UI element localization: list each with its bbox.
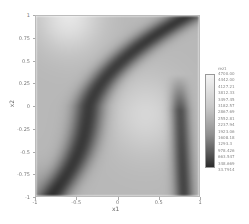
y-tick-label: -0.5 <box>4 149 30 155</box>
y-tick-mark <box>33 152 35 153</box>
y-tick-label: 0.5 <box>4 58 30 64</box>
colorbar-tick-label: 33.7914 <box>218 167 235 172</box>
y-tick-label: -0.25 <box>4 126 30 132</box>
colorbar-tick-label: 3182.57 <box>218 103 235 108</box>
colorbar-tick-label: 348.669 <box>218 161 235 166</box>
x-tick-mark <box>118 197 119 200</box>
y-tick-label: -0.75 <box>4 171 30 177</box>
x-tick-mark <box>200 197 201 200</box>
x-tick-mark <box>76 197 77 200</box>
colorbar-tick-label: 1923.06 <box>218 129 235 134</box>
x-tick-mark <box>35 197 36 200</box>
colorbar-tick-label: 2237.94 <box>218 122 235 127</box>
y-tick-mark <box>33 83 35 84</box>
colorbar-tick-label: 4127.21 <box>218 84 235 89</box>
colorbar <box>205 74 215 168</box>
heatmap-plot-area <box>35 15 200 197</box>
x-axis-label: x1 <box>112 205 119 212</box>
colorbar-tick-label: 4700.00 <box>218 71 235 76</box>
y-tick-label: 1 <box>4 12 30 18</box>
colorbar-tick-label: 978.426 <box>218 148 235 153</box>
y-tick-mark <box>33 38 35 39</box>
y-tick-mark <box>33 129 35 130</box>
colorbar-tick-label: 2552.81 <box>218 116 235 121</box>
colorbar-tick-label: 2867.69 <box>218 109 235 114</box>
y-tick-label: 0.75 <box>4 35 30 41</box>
y-axis-label: x2 <box>8 100 15 107</box>
y-tick-mark <box>33 174 35 175</box>
colorbar-tick-label: 4442.00 <box>218 77 235 82</box>
colorbar-tick-label: 1293.3 <box>218 141 232 146</box>
y-tick-label: 0.25 <box>4 80 30 86</box>
x-tick-mark <box>159 197 160 200</box>
y-tick-mark <box>33 61 35 62</box>
colorbar-tick-label: 3812.33 <box>218 90 235 95</box>
colorbar-tick-label: 3497.45 <box>218 97 235 102</box>
y-tick-mark <box>33 15 35 16</box>
colorbar-tick-label: 663.547 <box>218 154 235 159</box>
colorbar-tick-label: 1608.18 <box>218 135 235 140</box>
y-tick-mark <box>33 106 35 107</box>
